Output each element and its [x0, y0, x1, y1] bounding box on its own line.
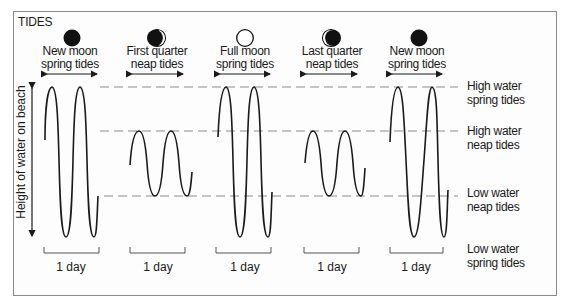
day-brackets	[44, 247, 443, 253]
wave-first-quarter	[130, 131, 192, 196]
last-quarter-moon-icon	[323, 30, 342, 47]
new-moon-icon	[64, 30, 81, 47]
tide-curves	[45, 87, 448, 237]
tide-diagram	[0, 0, 568, 307]
wave-new-moon	[45, 87, 98, 237]
wave-full-moon	[218, 87, 272, 237]
wave-last-quarter	[305, 131, 365, 196]
first-quarter-moon-icon	[147, 30, 166, 47]
full-moon-icon	[237, 30, 254, 47]
wave-new-moon-2	[390, 87, 448, 237]
new-moon-icon	[411, 30, 428, 47]
